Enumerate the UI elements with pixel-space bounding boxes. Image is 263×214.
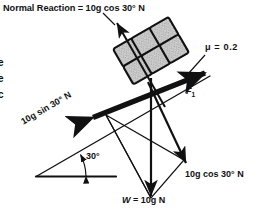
weight-symbol: W xyxy=(122,195,131,205)
incline-angle-label: 30° xyxy=(86,152,100,161)
block-crates xyxy=(113,17,189,85)
weight-label: W = 10g N xyxy=(122,196,165,205)
component-parallelogram xyxy=(106,115,184,198)
mu-leader-line xyxy=(188,55,205,74)
friction-coefficient-label: μ = 0.2 xyxy=(205,43,238,52)
edge-text-fragment: c xyxy=(0,89,4,100)
force-diagram-figure: Normal Reaction = 10g cos 30° N μ = 0.2 … xyxy=(0,0,263,214)
edge-text-fragment: e xyxy=(0,73,4,84)
friction-force-label: F1 xyxy=(186,87,195,98)
cos-component-label: 10g cos 30° N xyxy=(185,170,244,179)
friction-force-subscript: 1 xyxy=(192,91,196,98)
normal-reaction-leader-line xyxy=(103,13,115,25)
weight-value: = 10g N xyxy=(131,195,166,205)
normal-reaction-label: Normal Reaction = 10g cos 30° N xyxy=(3,4,145,13)
edge-text-fragment: e xyxy=(0,57,4,68)
